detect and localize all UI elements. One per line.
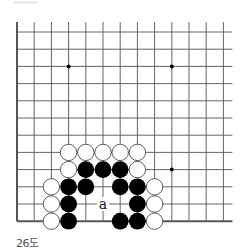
star-point-icon — [170, 64, 174, 68]
point-label-a: a — [99, 196, 107, 212]
star-point-icon — [170, 168, 174, 172]
white-stone — [129, 144, 145, 160]
black-stone — [112, 178, 129, 195]
black-stone — [95, 161, 112, 178]
black-stone — [60, 178, 77, 195]
black-stone — [112, 213, 129, 230]
star-point-icon — [67, 64, 71, 68]
white-stone — [146, 196, 162, 212]
white-stone — [43, 213, 59, 229]
white-stone — [146, 179, 162, 195]
go-board-diagram: a — [0, 0, 243, 232]
diagram-caption: 26도 — [16, 234, 39, 250]
white-stone — [95, 144, 111, 160]
white-stone — [43, 196, 59, 212]
black-stone — [60, 213, 77, 230]
white-stone — [78, 144, 94, 160]
black-stone — [77, 161, 94, 178]
black-stone — [129, 196, 146, 213]
black-stone — [129, 213, 146, 230]
black-stone — [129, 178, 146, 195]
white-stone — [112, 144, 128, 160]
white-stone — [60, 144, 76, 160]
white-stone — [129, 161, 145, 177]
white-stone — [146, 213, 162, 229]
black-stone — [77, 178, 94, 195]
white-stone — [43, 179, 59, 195]
white-stone — [60, 161, 76, 177]
black-stone — [60, 196, 77, 213]
black-stone — [112, 161, 129, 178]
